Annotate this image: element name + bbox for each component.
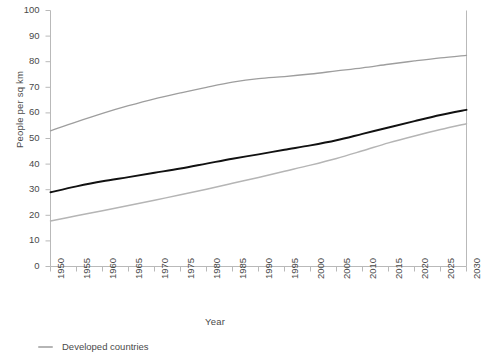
y-axis-tick-label: 60 (8, 106, 40, 117)
x-axis-tick-label: 1985 (237, 257, 248, 278)
x-axis-tick-label: 1980 (211, 257, 222, 278)
y-axis-tick-label: 50 (8, 132, 40, 143)
x-axis-tick-label: 1955 (81, 257, 92, 278)
x-axis-tick-label: 1975 (185, 257, 196, 278)
series-line-upper-line (51, 55, 467, 131)
y-axis-tick-label: 10 (8, 234, 40, 245)
x-axis-tick-label: 2025 (445, 257, 456, 278)
x-axis-title: Year (205, 316, 225, 327)
y-axis-tick-label: 80 (8, 55, 40, 66)
x-axis-tick-label: 2020 (419, 257, 430, 278)
x-axis-tick-label: 2005 (341, 257, 352, 278)
x-axis-tick-label: 1995 (289, 257, 300, 278)
series-line-lower-line (51, 124, 467, 221)
legend-item[interactable]: Developed countries (38, 341, 149, 352)
x-axis-tick-label: 1965 (133, 257, 144, 278)
series-line-middle-line (51, 110, 467, 192)
y-axis-tick-label: 40 (8, 158, 40, 169)
y-axis-tick-label: 70 (8, 81, 40, 92)
y-axis-tick-label: 90 (8, 30, 40, 41)
x-axis-tick-label: 2030 (471, 257, 481, 278)
legend-line-swatch (38, 346, 53, 348)
x-axis-tick-label: 1970 (159, 257, 170, 278)
y-axis-tick-label: 20 (8, 209, 40, 220)
population-density-line-chart: People per sq km Year 010203040506070809… (0, 0, 481, 355)
x-axis-tick-label: 1990 (263, 257, 274, 278)
x-axis-tick-label: 2015 (393, 257, 404, 278)
x-axis-tick-label: 2000 (315, 257, 326, 278)
x-axis-tick-label: 2010 (367, 257, 378, 278)
y-axis-tick-label: 0 (8, 260, 40, 271)
plot-area (0, 0, 481, 355)
legend-item-label: Developed countries (62, 341, 149, 352)
x-axis-tick-label: 1960 (107, 257, 118, 278)
y-axis-tick-label: 100 (8, 4, 40, 15)
x-axis-tick-label: 1950 (55, 257, 66, 278)
y-axis-tick-label: 30 (8, 183, 40, 194)
